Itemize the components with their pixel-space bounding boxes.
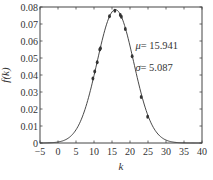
data-point-marker [120,15,123,19]
x-tick-label: 20 [125,146,135,157]
y-tick-label: 0.04 [21,70,39,81]
plot-frame [40,7,202,143]
x-axis-ticks: −50510152025303540 [35,7,207,157]
data-point-marker [92,76,95,80]
data-point-marker [124,27,127,31]
y-axis-label: f(k) [0,67,12,83]
data-point-marker [108,14,111,18]
sigma-annotation: σ= 5.087 [135,62,172,73]
data-point-marker [93,70,96,74]
x-tick-label: 10 [89,146,99,157]
data-point-marker [113,9,116,13]
y-tick-label: 0.02 [21,104,39,115]
y-tick-label: 0.07 [21,19,39,30]
data-point-marker [99,46,102,50]
y-axis-ticks: 00.010.020.030.040.050.060.070.08 [21,2,203,149]
x-tick-label: 35 [179,146,189,157]
y-tick-label: 0.06 [21,36,39,47]
mu-value: = 15.941 [141,40,178,51]
x-tick-label: 25 [143,146,153,157]
x-tick-label: 0 [56,146,61,157]
data-point-marker [96,60,99,64]
x-tick-label: 30 [161,146,171,157]
y-tick-label: 0.03 [21,87,39,98]
normal-distribution-chart: 00.010.020.030.040.050.060.070.08 −50510… [0,0,213,180]
data-point-marker [146,115,149,119]
y-tick-label: 0.08 [21,2,39,13]
data-point-marker [140,95,143,99]
data-point-marker [131,54,134,58]
x-tick-label: 40 [197,146,207,157]
parameter-annotations: μ= 15.941 σ= 5.087 [134,40,178,73]
normal-fit-curve [40,10,202,143]
y-tick-label: 0.01 [21,121,39,132]
sigma-value: = 5.087 [141,62,173,73]
y-tick-label: 0.05 [21,53,39,64]
x-tick-label: 15 [107,146,117,157]
x-axis-label: k [119,160,125,172]
mu-annotation: μ= 15.941 [134,40,178,51]
x-tick-label: −5 [35,146,46,157]
x-tick-label: 5 [74,146,79,157]
